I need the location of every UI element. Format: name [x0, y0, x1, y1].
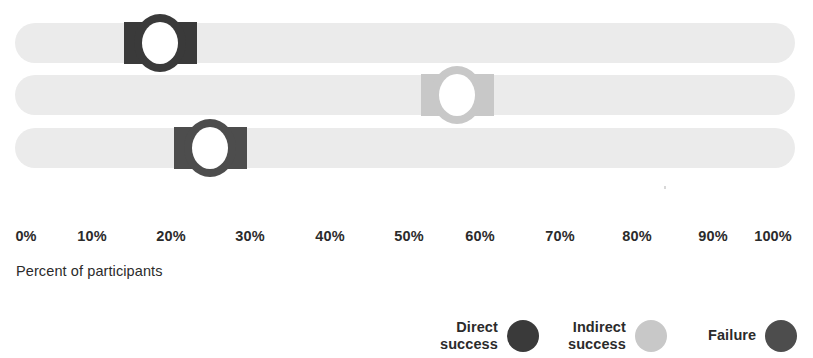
legend-item-failure[interactable]: Failure — [708, 313, 797, 358]
x-axis-tick-100pct: 100% — [754, 228, 792, 244]
legend-item-label: Indirect success — [568, 319, 626, 351]
legend-item-label: Failure — [708, 327, 756, 343]
x-axis-tick-50pct: 50% — [394, 228, 423, 244]
legend-color-swatch-circle-icon — [635, 320, 667, 352]
progress-track-background — [15, 75, 795, 115]
chart-plot-area — [0, 0, 813, 215]
x-axis-tick-60pct: 60% — [465, 228, 494, 244]
legend-item-direct-success[interactable]: Direct success — [440, 313, 539, 358]
legend-color-swatch-circle-icon — [507, 320, 539, 352]
legend-item-label: Direct success — [440, 319, 498, 351]
chart-legend: Direct successIndirect successFailure — [440, 313, 805, 358]
progress-track-row-3 — [15, 128, 795, 168]
legend-color-swatch-circle-icon — [765, 320, 797, 352]
legend-item-indirect-success[interactable]: Indirect success — [568, 313, 667, 358]
marker-failure-row-3[interactable] — [174, 127, 247, 169]
x-axis-tick-10pct: 10% — [77, 228, 106, 244]
x-axis-title: Percent of participants — [16, 263, 163, 279]
scan-artifact-speck — [664, 186, 666, 189]
x-axis-tick-20pct: 20% — [156, 228, 185, 244]
x-axis-tick-80pct: 80% — [622, 228, 651, 244]
marker-ring-icon — [192, 127, 228, 169]
x-axis-tick-labels: 0%10%20%30%40%50%60%70%80%90%100% — [0, 228, 813, 248]
marker-indirect-success-row-2[interactable] — [421, 74, 494, 116]
x-axis-tick-70pct: 70% — [545, 228, 574, 244]
marker-direct-success-row-1[interactable] — [124, 22, 197, 64]
x-axis-tick-0pct: 0% — [15, 228, 36, 244]
x-axis-tick-40pct: 40% — [315, 228, 344, 244]
x-axis-tick-90pct: 90% — [698, 228, 727, 244]
progress-track-background — [15, 128, 795, 168]
marker-ring-icon — [439, 74, 475, 116]
progress-track-row-1 — [15, 23, 795, 63]
marker-ring-icon — [142, 22, 178, 64]
x-axis-tick-30pct: 30% — [235, 228, 264, 244]
progress-track-row-2 — [15, 75, 795, 115]
